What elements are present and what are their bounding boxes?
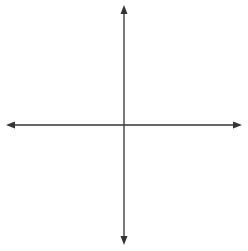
coordinate-plane [0,0,248,251]
x-axis-right-arrow-icon [233,122,242,129]
x-axis-left-arrow-icon [6,122,15,129]
y-axis-up-arrow-icon [121,5,128,14]
y-axis-down-arrow-icon [121,236,128,245]
